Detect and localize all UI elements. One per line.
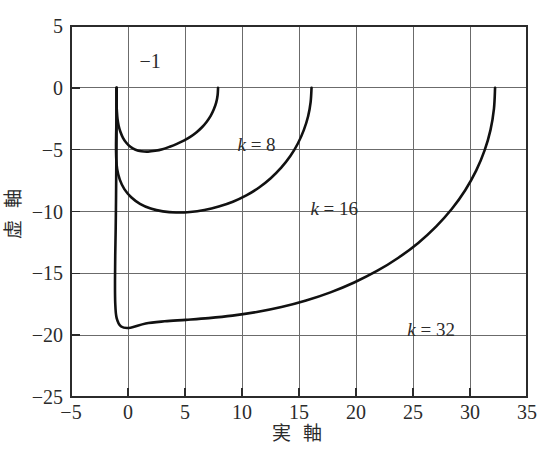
k8-label-annotation: k = 8 — [237, 134, 275, 155]
k16-label-annotation: k = 16 — [310, 198, 358, 219]
nyquist-plot-figure: −505101520253035 50−5−10−15−20−25 −1k = … — [0, 0, 543, 450]
y-tick-label: −15 — [32, 262, 63, 284]
chart-canvas: −505101520253035 50−5−10−15−20−25 −1k = … — [0, 0, 543, 450]
y-tick-label: −25 — [32, 386, 63, 408]
chart-background — [0, 0, 543, 450]
x-tick-label: 15 — [289, 401, 309, 423]
x-tick-label: 25 — [403, 401, 423, 423]
y-tick-label: −10 — [32, 201, 63, 223]
x-tick-label: 30 — [460, 401, 480, 423]
x-axis-tick-labels: −505101520253035 — [60, 401, 537, 423]
x-tick-label: 20 — [346, 401, 366, 423]
y-tick-label: −5 — [42, 139, 63, 161]
x-tick-label: −5 — [60, 401, 81, 423]
y-tick-label: 0 — [53, 77, 63, 99]
x-tick-label: 10 — [232, 401, 252, 423]
x-tick-label: 35 — [517, 401, 537, 423]
critical-point-annotation: −1 — [139, 50, 160, 72]
x-axis-title: 実 軸 — [272, 423, 327, 444]
x-tick-label: 0 — [123, 401, 133, 423]
y-tick-label: 5 — [53, 15, 63, 37]
k32-label-annotation: k = 32 — [407, 319, 455, 340]
y-tick-label: −20 — [32, 324, 63, 346]
x-tick-label: 5 — [180, 401, 190, 423]
y-axis-title: 虚 軸 — [3, 185, 24, 240]
